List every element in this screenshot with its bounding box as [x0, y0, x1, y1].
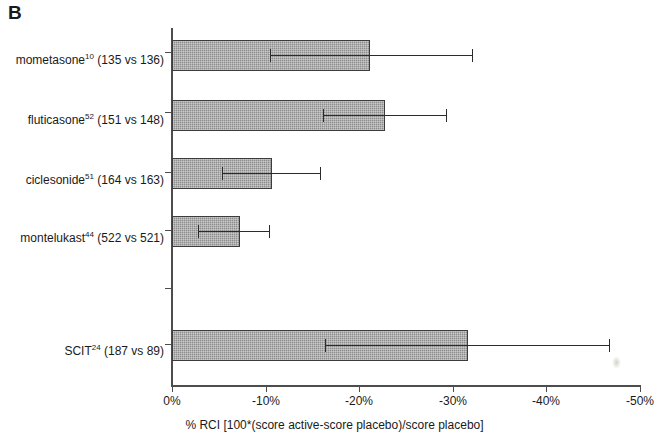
x-axis-tick-label: -50%	[626, 394, 654, 408]
error-bar-line-fluticasone	[323, 115, 446, 116]
error-bar-cap-low-mometasone	[270, 49, 271, 62]
y-axis-tick	[165, 344, 172, 345]
error-bar-line-ciclesonide	[222, 173, 320, 174]
category-label-scit: SCIT24 (187 vs 89)	[64, 344, 164, 358]
error-bar-cap-low-montelukast	[198, 225, 199, 238]
category-counts: (151 vs 148)	[97, 113, 164, 127]
y-axis-tick	[165, 288, 172, 289]
category-reference-marker: 52	[85, 112, 94, 121]
x-axis-tick	[640, 385, 641, 392]
category-drug-name: montelukast	[20, 231, 85, 245]
category-drug-name: fluticasone	[28, 113, 85, 127]
error-bar-cap-high-ciclesonide	[320, 167, 321, 180]
category-counts: (522 vs 521)	[97, 231, 164, 245]
y-axis-tick	[165, 172, 172, 173]
category-counts: (164 vs 163)	[97, 173, 164, 187]
y-axis-tick	[165, 112, 172, 113]
x-axis-tick-label: 0%	[163, 394, 180, 408]
category-counts: (187 vs 89)	[104, 344, 164, 358]
figure-panel-b: B mometasone10 (135 vs 136) fluticasone5…	[0, 0, 669, 440]
category-label-montelukast: montelukast44 (522 vs 521)	[20, 231, 164, 245]
error-bar-cap-high-scit	[609, 339, 610, 352]
x-axis-tick	[453, 385, 454, 392]
y-axis-tick	[165, 52, 172, 53]
x-axis-title: % RCI [100*(score active-score placebo)/…	[0, 418, 669, 432]
error-bar-cap-high-fluticasone	[446, 109, 447, 122]
category-reference-marker: 24	[92, 343, 101, 352]
error-bar-line-scit	[325, 345, 609, 346]
category-label-fluticasone: fluticasone52 (151 vs 148)	[28, 113, 164, 127]
category-reference-marker: 51	[85, 172, 94, 181]
category-reference-marker: 44	[85, 230, 94, 239]
category-counts: (135 vs 136)	[97, 53, 164, 67]
error-bar-line-mometasone	[270, 55, 472, 56]
error-bar-cap-low-scit	[325, 339, 326, 352]
x-axis-tick	[266, 385, 267, 392]
error-bar-cap-high-mometasone	[472, 49, 473, 62]
category-drug-name: SCIT	[64, 344, 91, 358]
error-bar-cap-low-ciclesonide	[222, 167, 223, 180]
x-axis-tick	[172, 385, 173, 392]
x-axis-tick	[359, 385, 360, 392]
x-axis-tick-label: -40%	[532, 394, 560, 408]
x-axis-line	[171, 385, 641, 387]
category-label-ciclesonide: ciclesonide51 (164 vs 163)	[26, 173, 164, 187]
error-bar-cap-low-fluticasone	[323, 109, 324, 122]
plot-area: 0% -10% -20% -30% -40% -50%	[172, 28, 640, 385]
x-axis-tick-label: -30%	[439, 394, 467, 408]
y-axis-tick	[165, 230, 172, 231]
x-axis-tick	[546, 385, 547, 392]
category-reference-marker: 10	[85, 52, 94, 61]
error-bar-cap-high-montelukast	[269, 225, 270, 238]
scan-artifact	[612, 356, 621, 369]
x-axis-tick-label: -20%	[345, 394, 373, 408]
category-drug-name: mometasone	[16, 53, 85, 67]
category-drug-name: ciclesonide	[26, 173, 85, 187]
category-label-group: mometasone10 (135 vs 136) fluticasone52 …	[0, 0, 168, 440]
category-label-mometasone: mometasone10 (135 vs 136)	[16, 53, 164, 67]
x-axis-tick-label: -10%	[252, 394, 280, 408]
error-bar-line-montelukast	[198, 231, 269, 232]
